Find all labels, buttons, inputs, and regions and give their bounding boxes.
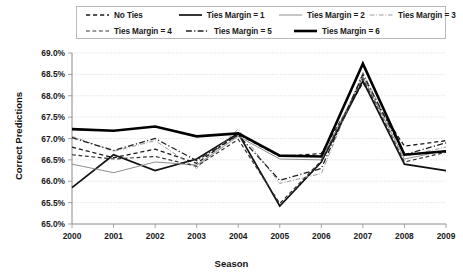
series-line-6	[72, 74, 446, 180]
legend-swatch	[85, 10, 110, 20]
legend-label: Ties Margin = 5	[214, 27, 272, 36]
plot-area: 65.0%65.5%66.0%66.5%67.0%67.5%68.0%68.5%…	[0, 0, 463, 272]
legend-swatch	[178, 10, 203, 20]
line-chart: No TiesTies Margin = 1Ties Margin = 2Tie…	[0, 0, 463, 272]
y-axis-tick-label: 67.5%	[41, 112, 65, 122]
legend-label: Ties Margin = 2	[307, 11, 365, 20]
x-axis-tick-label: 2002	[146, 231, 165, 241]
x-axis-tick-label: 2000	[63, 231, 82, 241]
x-axis-tick-label: 2008	[395, 231, 414, 241]
x-axis-tick-label: 2003	[187, 231, 206, 241]
legend-label: No Ties	[114, 11, 143, 20]
x-axis-tick-label: 2006	[312, 231, 331, 241]
y-axis-tick-label: 66.0%	[41, 176, 65, 186]
legend-item-ties-margin-2[interactable]: Ties Margin = 2	[274, 10, 365, 20]
x-axis-tick-label: 2001	[104, 231, 123, 241]
legend-label: Ties Margin = 3	[398, 11, 456, 20]
y-axis-tick-label: 68.0%	[41, 91, 65, 101]
y-axis-tick-label: 67.0%	[41, 134, 65, 144]
legend-swatch	[85, 26, 110, 36]
y-axis-tick-label: 65.0%	[41, 219, 65, 229]
legend-label: Ties Margin = 4	[114, 27, 172, 36]
legend-swatch	[293, 26, 318, 36]
chart-legend: No TiesTies Margin = 1Ties Margin = 2Tie…	[76, 6, 446, 39]
legend-row: Ties Margin = 4Ties Margin = 5Ties Margi…	[77, 23, 445, 39]
legend-item-ties-margin-4[interactable]: Ties Margin = 4	[77, 26, 181, 36]
y-axis-tick-label: 66.5%	[41, 155, 65, 165]
x-axis-title: Season	[0, 258, 463, 269]
y-axis-tick-label: 68.5%	[41, 69, 65, 79]
legend-item-ties-margin-6[interactable]: Ties Margin = 6	[289, 26, 387, 36]
y-axis-tick-label: 65.5%	[41, 198, 65, 208]
legend-label: Ties Margin = 1	[207, 11, 265, 20]
legend-item-no-ties[interactable]: No Ties	[77, 10, 174, 20]
legend-item-ties-margin-1[interactable]: Ties Margin = 1	[174, 10, 274, 20]
y-axis-title: Correct Predictions	[13, 66, 24, 206]
series-line-5	[72, 79, 446, 204]
x-axis-tick-label: 2009	[437, 231, 456, 241]
x-axis-tick-label: 2004	[229, 231, 248, 241]
legend-swatch	[185, 26, 210, 36]
legend-swatch	[369, 10, 394, 20]
y-axis-tick-label: 69.0%	[41, 48, 65, 58]
series-line-7	[72, 64, 446, 157]
x-axis-tick-label: 2005	[270, 231, 289, 241]
legend-row: No TiesTies Margin = 1Ties Margin = 2Tie…	[77, 7, 445, 23]
x-axis-tick-label: 2007	[354, 231, 373, 241]
legend-item-ties-margin-3[interactable]: Ties Margin = 3	[365, 10, 445, 20]
legend-item-ties-margin-5[interactable]: Ties Margin = 5	[181, 26, 289, 36]
legend-label: Ties Margin = 6	[322, 27, 380, 36]
legend-swatch	[278, 10, 303, 20]
